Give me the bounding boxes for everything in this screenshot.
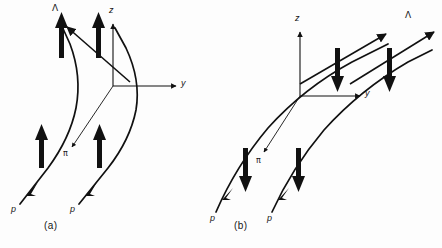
panel-b-track-left	[216, 44, 388, 212]
panel-a-spin-arrow-3	[35, 124, 48, 168]
figure-container: Λ z y π p p (a) Λ z y π p p (b)	[0, 0, 442, 248]
panel-b-y-axis-label: y	[365, 89, 370, 98]
panel-b-spin-arrow-1	[331, 48, 344, 92]
panel-b-proton-label-left: p	[210, 214, 215, 223]
panel-b-group	[216, 32, 434, 212]
panel-b-spin-arrow-3	[239, 148, 252, 192]
panel-b-lambda-label: Λ	[405, 11, 411, 20]
panel-a-track-left	[20, 22, 78, 204]
panel-a-pi-axis-label: π	[63, 149, 68, 158]
diagram-canvas	[0, 0, 442, 248]
panel-b-track-right	[272, 50, 432, 212]
panel-a-lambda-label: Λ	[52, 4, 58, 13]
panel-a-caption: (a)	[44, 220, 57, 231]
panel-b-pi-axis	[264, 96, 300, 152]
panel-a-spin-arrow-4	[93, 124, 106, 168]
panel-a-track-right	[79, 28, 137, 204]
panel-b-pi-axis-label: π	[256, 156, 261, 165]
panel-a-z-axis-label: z	[109, 6, 114, 15]
panel-b-proton-label-right: p	[267, 214, 272, 223]
panel-a-proton-label-right: p	[70, 205, 75, 214]
panel-b-caption: (b)	[234, 220, 247, 231]
panel-a-group	[20, 12, 176, 204]
panel-b-z-axis-label: z	[295, 14, 300, 23]
panel-a-proton-label-left: p	[11, 205, 16, 214]
panel-a-y-axis-label: y	[181, 79, 186, 88]
